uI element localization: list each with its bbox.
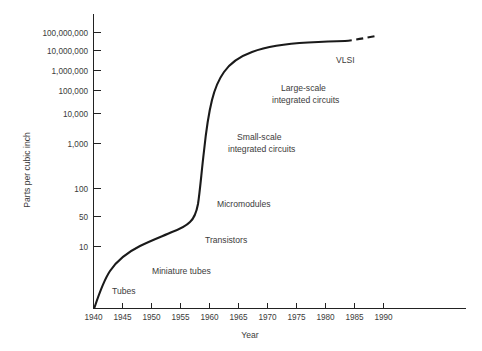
y-tick-label: 10,000,000 (47, 47, 88, 56)
y-tick-label: 10,000 (63, 110, 88, 119)
semilog-line-chart: 100,000,000 10,000,000 1,000,000 100,000… (0, 0, 482, 351)
y-tick-label: 100,000,000 (42, 29, 88, 38)
y-tick-label: 50 (79, 213, 89, 222)
annotation-transistors: Transistors (205, 235, 247, 245)
y-tick-label: 1,000 (68, 140, 89, 149)
y-tick-label: 10 (79, 243, 89, 252)
annotation-small-scale-line2: integrated circuits (228, 144, 295, 154)
x-tick-label: 1975 (287, 313, 306, 322)
x-axis-title: Year (241, 330, 259, 340)
annotation-large-scale-line2: integrated circuits (272, 95, 339, 105)
annotation-tubes: Tubes (112, 286, 136, 296)
x-axis-tick-labels: 1940 1945 1950 1955 1960 1965 1970 1975 … (84, 313, 393, 322)
x-tick-label: 1950 (142, 313, 161, 322)
x-tick-label: 1945 (113, 313, 132, 322)
chart-figure: 100,000,000 10,000,000 1,000,000 100,000… (0, 0, 482, 351)
annotation-miniature-tubes: Miniature tubes (152, 266, 211, 276)
x-tick-label: 1965 (229, 313, 248, 322)
x-tick-label: 1990 (374, 313, 393, 322)
y-tick-label: 100 (74, 185, 88, 194)
x-tick-label: 1960 (200, 313, 219, 322)
x-tick-label: 1940 (84, 313, 103, 322)
annotation-small-scale-line1: Small-scale (237, 132, 282, 142)
x-tick-label: 1970 (258, 313, 277, 322)
x-tick-label: 1955 (171, 313, 190, 322)
annotation-large-scale-line1: Large-scale (281, 83, 326, 93)
y-tick-label: 100,000 (58, 87, 88, 96)
y-axis-title: Parts per cubic inch (22, 132, 32, 208)
x-tick-label: 1980 (316, 313, 335, 322)
x-tick-label: 1985 (345, 313, 364, 322)
annotation-vlsi: VLSI (336, 55, 355, 65)
annotation-micromodules: Micromodules (217, 199, 271, 209)
y-tick-label: 1,000,000 (52, 67, 89, 76)
